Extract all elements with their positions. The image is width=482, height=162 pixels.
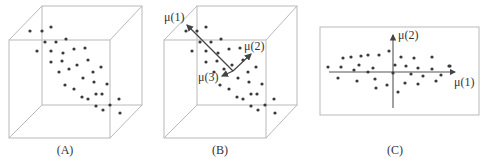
data-point [92, 80, 95, 83]
cube-a [9, 6, 142, 138]
data-point [404, 64, 407, 67]
data-point [241, 97, 244, 100]
data-point [86, 58, 89, 61]
data-point [246, 70, 249, 73]
data-point [416, 82, 419, 85]
vector-mu2-arrow [233, 54, 251, 71]
data-point [373, 77, 376, 80]
data-point [57, 70, 60, 73]
data-point [35, 49, 38, 52]
x-axis-label: μ(1) [454, 75, 474, 89]
data-point [91, 70, 94, 73]
data-point [49, 49, 52, 52]
y-axis-label: μ(2) [398, 28, 418, 42]
vector-mu2-label: μ(2) [244, 39, 264, 53]
data-point [374, 86, 377, 89]
data-point [108, 103, 111, 106]
data-point [215, 59, 218, 62]
data-point [387, 49, 390, 52]
data-point [227, 47, 230, 50]
data-point [28, 29, 31, 32]
data-point [403, 81, 406, 84]
data-point [355, 79, 358, 82]
data-point [391, 71, 394, 74]
data-point [273, 111, 276, 114]
vector-mu1-arrow [187, 25, 233, 71]
data-point [412, 56, 415, 59]
data-point [54, 40, 57, 43]
data-point [357, 63, 360, 66]
data-point [219, 37, 222, 40]
panel-c: μ(1) μ(2) (C) [320, 27, 479, 157]
data-point [99, 65, 102, 68]
data-point [222, 67, 225, 70]
data-point [230, 63, 233, 66]
data-point [49, 60, 52, 63]
data-point [40, 29, 43, 32]
data-point [238, 46, 241, 49]
data-point [100, 92, 103, 95]
data-point [195, 29, 198, 32]
data-point [81, 76, 84, 79]
data-point [94, 92, 97, 95]
data-point [377, 53, 380, 56]
data-point [366, 70, 369, 73]
pca-figure: (A) μ(1)μ(2)μ(3) (B) μ(1) μ(2) (C) [0, 0, 482, 162]
data-point [254, 65, 257, 68]
data-point [385, 83, 388, 86]
caption-c: (C) [387, 143, 403, 157]
data-point [83, 46, 86, 49]
data-point [396, 90, 399, 93]
data-point [421, 74, 424, 77]
data-point [272, 97, 275, 100]
vector-mu3-arrow [222, 71, 233, 76]
data-point [366, 53, 369, 56]
data-point [359, 54, 362, 57]
data-point [75, 63, 78, 66]
data-point [247, 80, 250, 83]
data-point [105, 82, 108, 85]
data-point [393, 63, 396, 66]
data-point [184, 29, 187, 32]
data-point [61, 51, 64, 54]
data-point [49, 25, 52, 28]
panel-b: μ(1)μ(2)μ(3) (B) [164, 6, 297, 157]
data-point [409, 72, 412, 75]
data-point [72, 87, 75, 90]
data-point [118, 111, 121, 114]
caption-b: (B) [212, 143, 228, 157]
data-point [94, 104, 97, 107]
data-point [117, 97, 120, 100]
data-point [434, 79, 437, 82]
data-point [204, 60, 207, 63]
data-point [235, 95, 238, 98]
data-point [430, 55, 433, 58]
data-point [64, 37, 67, 40]
data-point [430, 67, 433, 70]
caption-a: (A) [57, 143, 74, 157]
data-point [190, 49, 193, 52]
data-point [204, 49, 207, 52]
data-point [43, 40, 46, 43]
vector-mu1-label: μ(1) [164, 10, 184, 24]
data-point [60, 59, 63, 62]
data-point [326, 65, 329, 68]
data-point [67, 67, 70, 70]
data-point [204, 25, 207, 28]
data-point [236, 76, 239, 79]
data-point [72, 47, 75, 50]
panel-a: (A) [9, 6, 142, 157]
data-point [86, 97, 89, 100]
data-point [209, 40, 212, 43]
data-point [336, 76, 339, 79]
data-point [349, 55, 352, 58]
data-point [260, 82, 263, 85]
data-point [218, 83, 221, 86]
data-point [439, 73, 442, 76]
data-point [255, 92, 258, 95]
data-point [341, 56, 344, 59]
data-point [416, 66, 419, 69]
data-point [447, 64, 450, 67]
data-point [399, 55, 402, 58]
data-point [371, 66, 374, 69]
